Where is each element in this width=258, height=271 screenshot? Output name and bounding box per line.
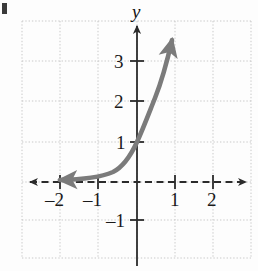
y-tick-label-2: 2 [114, 92, 124, 111]
exponential-function-graph: y 3 2 1 –1 –2 –1 1 2 [0, 0, 258, 271]
plot-canvas [0, 0, 258, 271]
y-tick-label-neg1: –1 [106, 211, 125, 230]
x-tick-label-1: 1 [170, 190, 180, 209]
y-axis-label: y [132, 2, 140, 21]
y-tick-label-1: 1 [116, 133, 126, 152]
y-tick-label-3: 3 [114, 52, 124, 71]
x-tick-label-neg2: –2 [45, 190, 64, 209]
x-tick-label-2: 2 [207, 190, 217, 209]
x-tick-label-neg1: –1 [83, 190, 102, 209]
